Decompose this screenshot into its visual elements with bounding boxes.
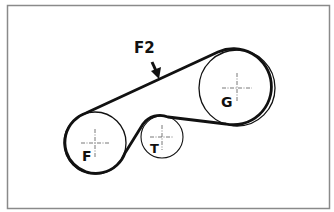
force-label: F2 xyxy=(134,39,155,57)
diagram-frame xyxy=(8,6,330,209)
pulley-g-label: G xyxy=(221,94,233,110)
pulley-t-label: T xyxy=(150,141,159,156)
pulley-f-label: F xyxy=(82,148,92,164)
belt-diagram: F T G F2 xyxy=(0,0,334,212)
diagram-canvas: F T G F2 xyxy=(0,0,334,212)
